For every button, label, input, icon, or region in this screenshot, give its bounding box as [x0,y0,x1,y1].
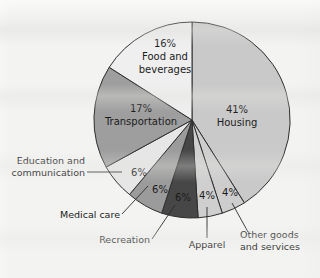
pie-chart-svg: 41% Housing 16% Food and beverages 17% T… [0,0,320,278]
callout-label-education-line2: communication [12,167,85,178]
callout-label-other-goods-line2: and services [240,241,300,252]
callout-label-medical-care: Medical care [60,209,120,220]
slice-label-other-goods-percent: 4% [222,187,238,198]
slice-label-housing-percent: 41% [226,104,248,115]
callout-label-recreation: Recreation [99,234,150,245]
callout-label-apparel: Apparel [189,239,226,250]
slice-label-recreation-percent: 6% [175,192,191,203]
leader-line-other-goods-and-services [232,203,248,232]
callout-label-education-line1: Education and [17,155,85,166]
slice-label-transportation-name: Transportation [104,116,177,127]
slice-label-food-name-line2: beverages [139,64,192,75]
pie-chart-figure: 41% Housing 16% Food and beverages 17% T… [0,0,320,278]
slice-label-housing-name: Housing [217,117,258,128]
callout-label-other-goods-line1: Other goods [240,229,299,240]
slice-label-education-percent: 6% [131,167,147,178]
slice-label-apparel-percent: 4% [199,190,215,201]
slice-label-transportation-percent: 17% [130,103,152,114]
slice-label-medical-percent: 6% [152,184,168,195]
slice-label-food-percent: 16% [154,38,176,49]
slice-label-food-name-line1: Food and [142,51,188,62]
